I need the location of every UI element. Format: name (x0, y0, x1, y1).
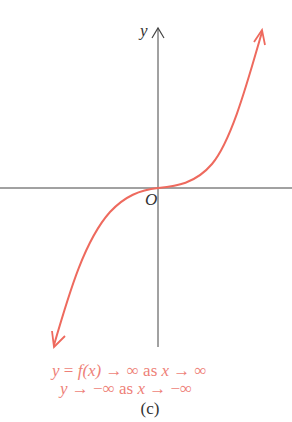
annotation-2-x: x (137, 379, 145, 398)
y-axis-label: y (140, 21, 148, 41)
plot-area (0, 0, 292, 422)
annotation-2-y: y (60, 379, 68, 398)
annotation-1-arrow-1: → ∞ as (101, 361, 161, 380)
subfigure-label: (c) (4, 400, 292, 417)
annotation-2-arrow-2: → −∞ (145, 379, 192, 398)
annotation-line-2: y → −∞ as x → −∞ (0, 380, 292, 397)
annotation-line-1: y = f(x) → ∞ as x → ∞ (0, 362, 292, 379)
annotation-1-arrow-2: → ∞ (169, 361, 207, 380)
annotation-1-x-arg: (x) (82, 361, 101, 380)
annotation-1-y: y (52, 361, 60, 380)
annotation-2-arrow-1: → −∞ as (68, 379, 138, 398)
annotation-1-x: x (162, 361, 170, 380)
annotation-1-eq: = (60, 361, 78, 380)
curve-arrow-down-icon (52, 331, 65, 347)
origin-label: O (145, 190, 157, 210)
